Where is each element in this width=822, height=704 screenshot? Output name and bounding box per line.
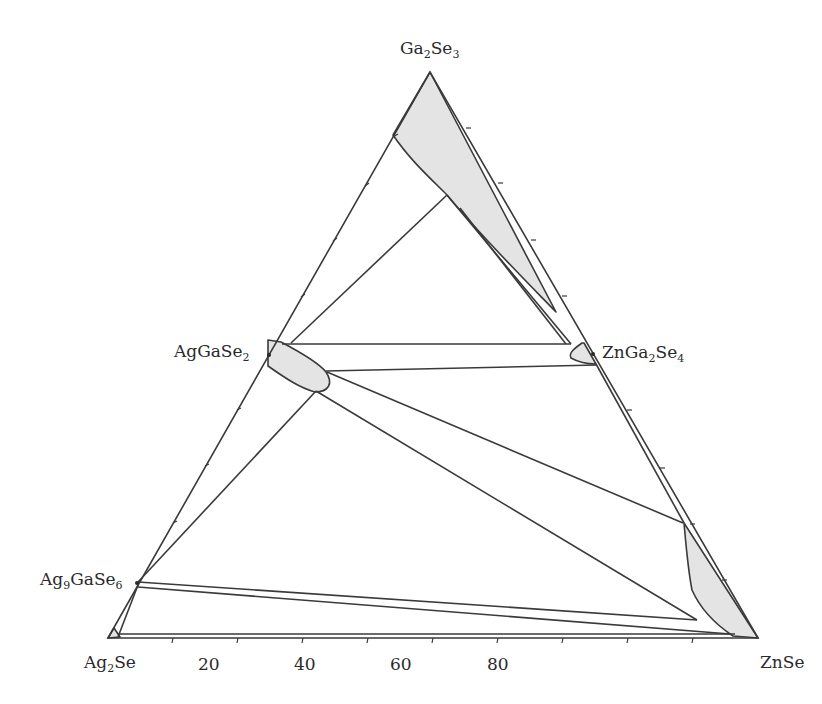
label-sub: 4	[677, 352, 684, 365]
tie-line	[118, 585, 138, 637]
label-part: Ga	[400, 38, 424, 58]
axis-tick-label: 60	[390, 656, 412, 673]
label-part: Ag	[84, 652, 107, 672]
compound-label-aggase2: AgGaSe2	[174, 343, 250, 363]
znga2se4-point	[591, 352, 595, 356]
label-part: ZnSe	[760, 652, 804, 672]
compound-label-ag9gase6: Ag9GaSe6	[40, 571, 123, 591]
label-part: AgGaSe	[174, 341, 243, 361]
tie-line	[138, 391, 316, 582]
label-sub: 2	[424, 48, 431, 61]
compound-label-znga2se4: ZnGa2Se4	[602, 344, 684, 364]
axis-tick-label: 80	[487, 656, 509, 673]
label-part: GaSe	[70, 569, 115, 589]
vertex-label-znse: ZnSe	[760, 654, 804, 671]
tie-line	[447, 195, 571, 344]
tie-line	[327, 372, 683, 523]
label-part: Se	[431, 38, 453, 58]
tie-line	[138, 587, 730, 634]
label-part: Se	[655, 342, 677, 362]
label-sub: 2	[243, 351, 250, 364]
ternary-diagram	[0, 0, 822, 704]
vertex-label-ag2se: Ag2Se	[84, 654, 136, 674]
znse-phase-region	[684, 523, 758, 638]
axis-tick-label: 40	[294, 656, 316, 673]
ga2se3-phase-region	[393, 72, 556, 312]
label-part: Ag	[40, 569, 63, 589]
axis-ticks	[172, 128, 727, 643]
label-part: ZnGa	[602, 342, 648, 362]
label-part: Se	[114, 652, 136, 672]
aggase2-point	[267, 353, 271, 357]
tie-line	[291, 195, 447, 343]
ag9gase6-point	[135, 581, 139, 585]
axis-tick-label: 20	[198, 656, 220, 673]
aggase2-phase-region	[268, 340, 330, 392]
tie-line	[326, 365, 597, 371]
vertex-label-ga2se3: Ga2Se3	[400, 40, 459, 60]
tie-line	[138, 582, 697, 620]
tie-line	[596, 364, 684, 523]
label-sub: 3	[452, 48, 459, 61]
label-sub: 6	[116, 579, 123, 592]
